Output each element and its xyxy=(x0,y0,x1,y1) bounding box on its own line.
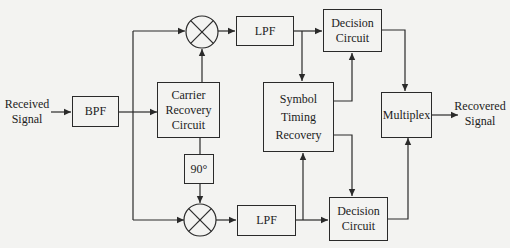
wire-timing-decision-bottom xyxy=(334,135,352,196)
mixer-top xyxy=(186,16,218,48)
block-carrier-recovery-circuit: Carrier Recovery Circuit xyxy=(157,82,220,138)
mixer-bottom xyxy=(184,204,216,236)
block-decision-circuit-bottom: Decision Circuit xyxy=(329,197,388,241)
input-label-received-signal: Received Signal xyxy=(2,97,52,127)
block-lpf-bottom: LPF xyxy=(237,205,296,236)
wire-decision-top-mux xyxy=(382,30,405,91)
wire-timing-decision-top xyxy=(334,53,352,101)
block-phase-shift-90: 90° xyxy=(184,154,214,184)
block-symbol-timing-recovery: Symbol Timing Recovery xyxy=(263,82,334,152)
block-bpf: BPF xyxy=(72,96,119,127)
block-lpf-top: LPF xyxy=(236,16,294,46)
output-label-recovered-signal: Recovered Signal xyxy=(450,99,510,129)
block-multiplex: Multiplex xyxy=(381,92,432,138)
block-decision-circuit-top: Decision Circuit xyxy=(323,9,382,52)
wire-decision-bottom-mux xyxy=(388,138,408,219)
